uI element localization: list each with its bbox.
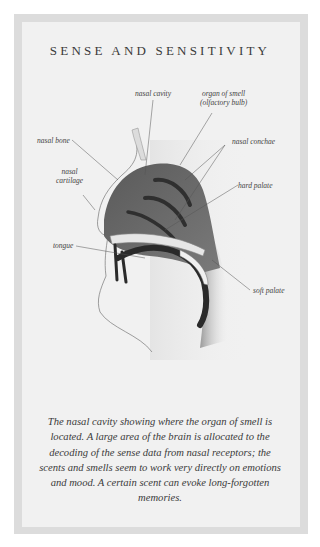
label-nasal-cavity: nasal cavity (135, 89, 171, 98)
label-organ-of-smell: organ of smell (olfactory bulb) (200, 89, 247, 107)
label-nasal-conchae: nasal conchae (232, 137, 275, 146)
leader-nasal-cartilage-1 (83, 195, 95, 210)
label-nasal-bone: nasal bone (37, 136, 70, 145)
label-soft-palate: soft palate (253, 286, 284, 295)
label-tongue: tongue (53, 241, 73, 250)
figure-caption: The nasal cavity showing where the organ… (38, 414, 282, 506)
label-nasal-cartilage-line2: cartilage (56, 176, 83, 185)
lips (115, 245, 126, 282)
label-organ-of-smell-line1: organ of smell (200, 89, 247, 98)
nasal-bone-shape (132, 128, 146, 160)
label-hard-palate: hard palate (238, 181, 273, 190)
label-nasal-cartilage-line1: nasal (56, 167, 83, 176)
label-organ-of-smell-line2: (olfactory bulb) (200, 98, 247, 107)
label-nasal-cartilage: nasal cartilage (56, 167, 83, 185)
